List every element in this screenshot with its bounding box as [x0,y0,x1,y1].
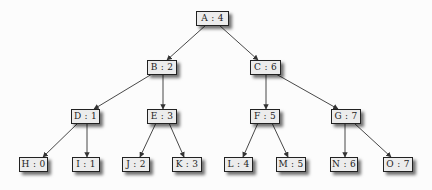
node-f: F : 5 [250,109,280,124]
node-o: O : 7 [383,157,413,172]
node-g: G : 7 [331,109,361,124]
edge-f-m [272,123,288,157]
node-a: A : 4 [196,11,229,26]
node-n: N : 6 [330,157,358,172]
edge-e-k [169,123,184,157]
edge-g-o [354,123,391,157]
node-m: M : 5 [276,157,306,172]
edge-d-h [43,123,78,157]
node-j: J : 2 [122,157,150,172]
edge-f-l [243,123,258,157]
node-e: E : 3 [147,109,177,124]
node-c: C : 6 [250,60,281,75]
edge-e-j [140,123,156,157]
tree-edges [0,0,432,190]
node-k: K : 3 [172,157,202,172]
tree-diagram: A : 4 B : 2 C : 6 D : 1 E : 3 F : 5 G : … [0,0,432,190]
node-h: H : 0 [19,157,48,172]
edge-a-b [167,25,206,60]
edge-c-g [276,74,338,109]
node-b: B : 2 [147,60,177,75]
node-d: D : 1 [71,109,100,124]
edge-a-c [219,25,258,60]
node-l: L : 4 [224,157,253,172]
node-i: I : 1 [72,157,100,172]
edge-b-d [94,74,152,109]
